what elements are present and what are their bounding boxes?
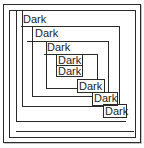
frame-border-line xyxy=(16,131,134,132)
frame-label-dark-6: Dark xyxy=(79,81,102,92)
frame-border-line xyxy=(97,54,98,80)
frame-border-line xyxy=(32,26,33,96)
frame-border-line xyxy=(108,41,109,92)
frame-label-dark-7: Dark xyxy=(94,93,117,104)
frame-border-line xyxy=(32,96,93,97)
frame-label-dark-1: Dark xyxy=(23,14,46,25)
frame-border-line xyxy=(16,121,126,122)
frame-border-line xyxy=(16,10,17,121)
frame-label-dark-5: Dark xyxy=(58,66,81,77)
frame-border-line xyxy=(119,26,120,104)
frame-border-line xyxy=(22,106,104,107)
frame-label-dark-8: Dark xyxy=(105,106,128,117)
tk-window: DarkDarkDarkDarkDarkDarkDarkDark xyxy=(0,0,144,148)
frame-label-dark-3: Dark xyxy=(47,42,70,53)
frame-border-line xyxy=(46,88,78,89)
frame-label-dark-2: Dark xyxy=(35,28,58,39)
